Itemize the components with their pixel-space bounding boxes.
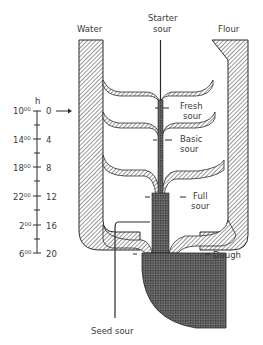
full-sour-label-line1: Full xyxy=(193,191,208,201)
dough-mass xyxy=(142,253,226,328)
hours-label: 16 xyxy=(46,221,57,231)
clock-label: 200 xyxy=(19,221,32,231)
basic-sour-label-line2: sour xyxy=(180,144,199,154)
hours-label: 8 xyxy=(46,163,51,173)
full-sour-left-branch xyxy=(103,155,160,195)
fresh-sour-left-branch xyxy=(103,80,161,103)
basic-sour-left-branch xyxy=(103,112,161,138)
sour-stem xyxy=(158,100,163,195)
sourdough-process-diagram: h 1000 1400 1800 2200 200 600 0 4 8 12 1… xyxy=(0,0,263,345)
flour-label: Flour xyxy=(218,24,240,34)
fresh-sour-label-line1: Fresh xyxy=(180,101,203,111)
water-channel xyxy=(79,40,140,250)
fresh-sour-right-branch xyxy=(159,80,213,103)
clock-label: 1400 xyxy=(13,135,31,145)
start-arrowhead-icon xyxy=(68,109,72,114)
starter-label-line1: Starter xyxy=(148,13,178,23)
timeline-unit: h xyxy=(35,96,40,106)
flour-channel xyxy=(200,40,248,250)
basic-sour-label-line1: Basic xyxy=(180,134,203,144)
full-sour-label-line2: sour xyxy=(191,201,210,211)
clock-label: 2200 xyxy=(13,192,31,202)
hours-label: 4 xyxy=(46,135,51,145)
clock-label: 1000 xyxy=(13,106,31,116)
starter-label-line2: sour xyxy=(153,24,172,34)
clock-label: 600 xyxy=(19,249,32,259)
fresh-sour-label-line2: sour xyxy=(183,111,202,121)
hours-label: 0 xyxy=(46,106,51,116)
timeline-axis xyxy=(33,111,41,253)
full-sour-right-branch xyxy=(162,160,224,195)
hours-label: 20 xyxy=(46,249,57,259)
full-sour-block xyxy=(152,193,169,253)
clock-label: 1800 xyxy=(13,163,31,173)
water-label: Water xyxy=(77,24,103,34)
dough-label: Dough xyxy=(213,250,241,260)
hours-label: 12 xyxy=(46,192,57,202)
seed-sour-label: Seed sour xyxy=(91,326,134,336)
